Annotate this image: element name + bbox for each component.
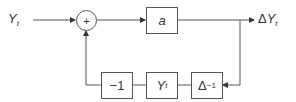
plus-sign: +	[83, 15, 89, 27]
delta-exponent: −1	[207, 81, 216, 90]
summing-junction: +	[76, 10, 97, 31]
delta-base: Δ	[198, 78, 207, 93]
input-symbol: Y	[8, 11, 17, 26]
delta-symbol: Δ	[258, 11, 267, 26]
gain-label: a	[158, 13, 165, 28]
state-block-yt: Yt	[146, 72, 178, 99]
output-label: ΔYt	[258, 12, 278, 31]
inverse-difference-block: Δ−1	[191, 72, 223, 99]
input-subscript: t	[17, 19, 19, 28]
state-subscript: t	[165, 81, 167, 90]
gain-block-a: a	[146, 7, 178, 34]
input-label: Yt	[8, 12, 19, 31]
negation-label: −1	[110, 78, 125, 93]
state-symbol: Y	[157, 78, 166, 93]
output-subscript: t	[275, 19, 277, 28]
negation-block: −1	[101, 72, 133, 99]
